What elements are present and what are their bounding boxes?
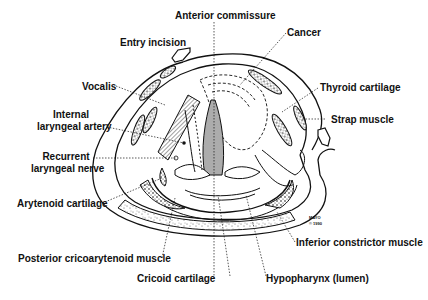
label-recurrent-laryngeal-nerve-line1: Recurrent — [30, 151, 102, 162]
right-incision-arrow-icon — [318, 128, 330, 146]
label-cancer: Cancer — [287, 27, 321, 38]
label-internal-laryngeal-artery-line1: Internal — [36, 109, 106, 120]
label-inferior-constrictor-muscle: Inferior constrictor muscle — [296, 237, 423, 248]
label-posterior-cricoarytenoid-muscle: Posterior cricoarytenoid muscle — [18, 253, 171, 264]
label-hypopharynx: Hypopharynx (lumen) — [266, 273, 369, 284]
right-cartilage-outline — [255, 150, 305, 186]
label-vocalis: Vocalis — [82, 81, 116, 92]
label-internal-laryngeal-artery-line2: laryngeal artery — [37, 121, 112, 132]
label-anterior-commissure: Anterior commissure — [175, 10, 276, 21]
mayo-mark-line1: MAYO — [309, 215, 321, 220]
label-arytenoid-cartilage: Arytenoid cartilage — [17, 198, 108, 209]
label-recurrent-laryngeal-nerve-line2: laryngeal nerve — [31, 163, 104, 174]
label-strap-muscle: Strap muscle — [331, 114, 394, 125]
mayo-mark-line2: © 1990 — [309, 221, 322, 226]
label-cricoid-cartilage: Cricoid cartilage — [137, 273, 215, 284]
label-thyroid-cartilage: Thyroid cartilage — [320, 82, 401, 93]
label-entry-incision: Entry incision — [120, 37, 186, 48]
